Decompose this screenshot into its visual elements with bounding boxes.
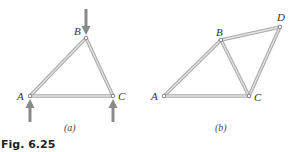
joint-b-B [219, 38, 223, 42]
joint-label-b-C: C [254, 91, 262, 103]
truss-a-members [30, 38, 113, 96]
joint-label-a-A: A [16, 90, 24, 102]
joint-label-a-C: C [118, 90, 126, 102]
joint-label-a-B: B [74, 25, 81, 37]
panel-b: A B C D (b) [150, 11, 285, 134]
joint-a-A [28, 94, 32, 98]
member-b-AB-highlight [164, 40, 221, 96]
member-b-BC-highlight [221, 40, 249, 96]
figure-canvas: A B C (a) A B C D (b) Fig. 6.25 [0, 0, 297, 152]
figure-caption: Fig. 6.25 [1, 138, 55, 151]
panel-label-b: (b) [215, 122, 227, 134]
reaction-arrow-up-A [26, 99, 35, 122]
reaction-arrow-up-C [109, 99, 118, 122]
member-b-BD-highlight [221, 27, 280, 40]
joint-a-B [84, 36, 88, 40]
member-b-CD-highlight [249, 27, 280, 96]
joint-b-C [247, 94, 251, 98]
member-a-AB-highlight [30, 38, 86, 96]
panel-label-a: (a) [64, 122, 76, 134]
member-a-BC-highlight [86, 38, 113, 96]
joint-b-D [278, 25, 282, 29]
panel-a: A B C (a) [16, 9, 126, 134]
joint-label-b-D: D [276, 11, 285, 23]
joint-a-C [111, 94, 115, 98]
joint-label-b-B: B [216, 26, 223, 38]
joint-b-A [162, 94, 166, 98]
joint-label-b-A: A [150, 90, 158, 102]
load-arrow-down-B [82, 9, 91, 35]
